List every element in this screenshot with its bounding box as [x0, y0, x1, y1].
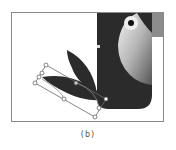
illustration-frame — [11, 12, 164, 122]
figure-caption: (b) — [0, 130, 176, 139]
toucan-eye — [128, 20, 134, 26]
toucan-illustration — [12, 13, 164, 122]
anchor-point[interactable] — [97, 45, 100, 48]
